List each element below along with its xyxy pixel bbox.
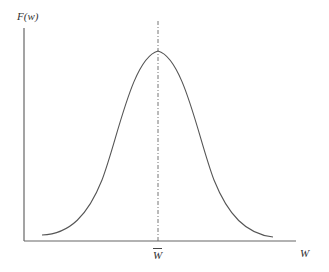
x-axis-label: W	[300, 248, 309, 259]
mean-label-text: W	[153, 249, 162, 261]
mean-label: W	[153, 248, 162, 261]
y-axis-label: F(w)	[17, 11, 38, 22]
bell-curve	[42, 51, 273, 237]
distribution-diagram	[0, 0, 329, 272]
